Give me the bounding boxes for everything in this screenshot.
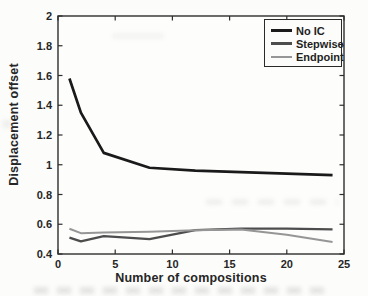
y-tick-label: 0.6 [37,218,52,230]
legend-item: No IC [271,24,336,37]
x-tick-label: 15 [223,258,235,270]
legend-line-sample [271,42,292,44]
y-tick-label: 0.4 [37,248,53,260]
legend-line-sample [271,29,292,32]
y-tick-label: 1.6 [37,70,52,82]
y-axis-label: Displacement offset [7,25,22,225]
legend-label: Stepwise [296,38,344,50]
y-tick-label: 0.8 [37,189,52,201]
y-tick-label: 1.8 [37,40,52,52]
x-tick-label: 5 [112,258,118,270]
x-tick-label: 25 [338,258,350,270]
legend: No ICStepwiseEndpoint [264,19,342,67]
figure: 05101520250.40.60.811.21.41.61.82 Number… [0,0,368,296]
x-tick-label: 0 [55,258,61,270]
legend-line-sample [271,56,292,58]
x-tick-label: 10 [166,258,178,270]
legend-item: Stepwise [271,37,336,50]
legend-label: Endpoint [296,51,344,63]
y-tick-label: 2 [46,10,52,22]
y-tick-label: 1.2 [37,129,52,141]
y-tick-label: 1 [46,159,52,171]
y-tick-label: 1.4 [37,99,53,111]
legend-label: No IC [296,25,325,37]
x-tick-label: 20 [281,258,293,270]
legend-item: Endpoint [271,50,336,63]
x-axis-label: Number of compositions [48,271,334,285]
